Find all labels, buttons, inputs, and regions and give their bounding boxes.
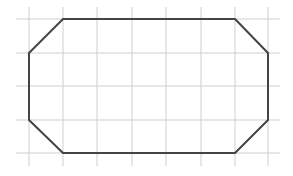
grid-lines: [16, 7, 280, 166]
grid-diagram: [0, 0, 293, 176]
